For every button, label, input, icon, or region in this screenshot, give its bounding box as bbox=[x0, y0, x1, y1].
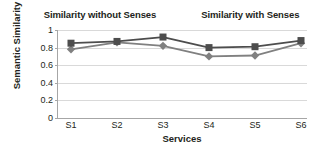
y-axis-tick-label: 1 bbox=[48, 25, 53, 35]
legend-label-without-senses: Similarity without Senses bbox=[44, 9, 157, 20]
data-point-marker-square bbox=[298, 37, 305, 44]
x-axis-tick-label: S5 bbox=[249, 120, 260, 130]
y-axis-tick-label: 0.6 bbox=[40, 60, 53, 70]
data-point-marker-square bbox=[68, 40, 75, 47]
x-axis-tick-label: S6 bbox=[295, 120, 306, 130]
legend-square-glyph bbox=[181, 10, 189, 18]
x-axis-tick-label: S1 bbox=[65, 120, 76, 130]
legend-label-with-senses: Similarity with Senses bbox=[201, 9, 299, 20]
x-axis-tick-label: S3 bbox=[157, 120, 168, 130]
series-line-with-senses bbox=[71, 37, 301, 48]
gridline bbox=[58, 118, 307, 119]
plot-area-wrapper: 00.20.40.60.81 bbox=[57, 30, 307, 118]
x-axis-tick-label: S2 bbox=[111, 120, 122, 130]
chart-legend: Similarity without Senses Similarity wit… bbox=[0, 4, 314, 24]
y-axis-title: Semantic Similarity bbox=[11, 0, 22, 98]
y-axis-tick-label: 0.4 bbox=[40, 78, 53, 88]
data-point-marker-diamond bbox=[159, 42, 167, 50]
x-axis-title: Services bbox=[57, 133, 307, 144]
series-overlay bbox=[57, 30, 307, 118]
data-point-marker-square bbox=[252, 43, 259, 50]
semantic-similarity-line-chart: Similarity without Senses Similarity wit… bbox=[0, 0, 314, 151]
data-point-marker-square bbox=[206, 44, 213, 51]
y-axis-tick-label: 0.2 bbox=[40, 95, 53, 105]
data-point-marker-square bbox=[114, 38, 121, 45]
data-point-marker-diamond bbox=[205, 52, 213, 60]
x-axis-tick-labels: S1S2S3S4S5S6 bbox=[57, 120, 307, 133]
legend-item-with-senses: Similarity with Senses bbox=[172, 8, 299, 20]
data-point-marker-square bbox=[160, 34, 167, 41]
y-axis-tick-mark bbox=[55, 118, 58, 119]
legend-diamond-glyph bbox=[22, 8, 33, 19]
x-axis-tick-label: S4 bbox=[203, 120, 214, 130]
y-axis-tick-label: 0.8 bbox=[40, 43, 53, 53]
legend-item-without-senses: Similarity without Senses bbox=[15, 8, 157, 20]
data-point-marker-diamond bbox=[251, 51, 259, 59]
legend-marker-square-icon bbox=[172, 8, 198, 20]
y-axis-tick-label: 0 bbox=[48, 113, 53, 123]
